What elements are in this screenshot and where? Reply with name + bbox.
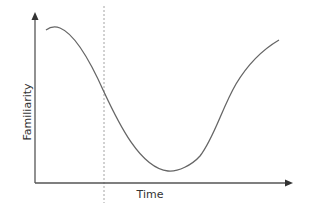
familiarity-curve	[46, 27, 279, 171]
familiarity-time-chart: Familiarity Time	[0, 0, 320, 209]
y-axis-arrow-icon	[32, 12, 39, 20]
x-axis-label: Time	[136, 188, 164, 201]
x-axis-arrow-icon	[285, 180, 293, 187]
y-axis-label: Familiarity	[21, 83, 34, 141]
